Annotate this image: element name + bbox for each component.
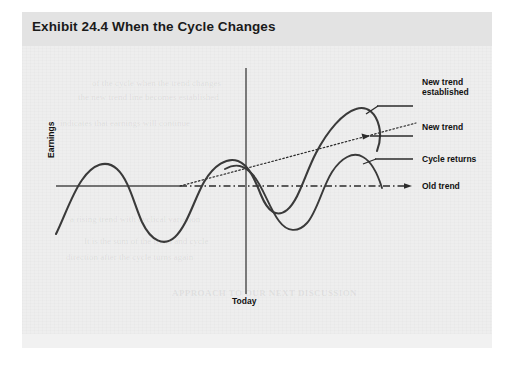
old-trend-arrowhead <box>404 183 412 189</box>
annotation-new-trend-established-line1: New trend <box>422 77 469 87</box>
y-axis-label-earnings: Earnings <box>46 122 56 158</box>
page-background: Exhibit 24.4 When the Cycle Changes of t… <box>0 0 518 365</box>
x-marker-label-today: Today <box>232 296 256 306</box>
annotation-new-trend: New trend <box>422 122 463 132</box>
annotation-new-trend-established: New trend established <box>422 77 469 97</box>
new-trend-established-curve <box>56 108 380 242</box>
annotation-old-trend: Old trend <box>422 181 460 191</box>
new-trend-arrowhead <box>362 134 371 140</box>
page-gutter-band <box>22 334 492 348</box>
annotation-cycle-returns: Cycle returns <box>422 154 476 164</box>
cycle-returns-curve <box>225 155 382 230</box>
cycle-chart <box>22 12 492 334</box>
annotation-new-trend-established-line2: established <box>422 87 469 97</box>
